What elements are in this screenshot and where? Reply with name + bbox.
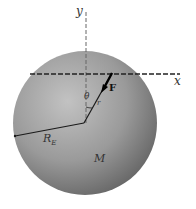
x-axis-label: x [174,75,181,87]
r-label: r [97,100,100,107]
earth-radius-label: RE [43,133,56,147]
force-label: F [109,83,116,93]
mass-label: M [94,153,105,164]
earth-radius-subscript: E [51,139,56,147]
earth-sphere [13,51,157,195]
theta-label: θ [84,92,89,101]
y-axis-label: y [76,5,83,17]
